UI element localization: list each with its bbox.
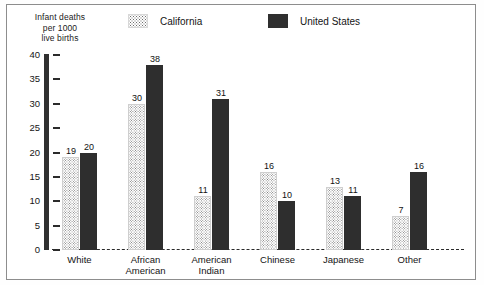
chart-figure: Infant deaths per 1000 live births Calif… [0,0,484,285]
bar-united-states [80,153,97,251]
bar-united-states [410,172,427,250]
x-axis-category-label: Chinese [243,254,313,265]
bar-value-label: 30 [126,93,148,103]
bar-group: 1131 [194,55,229,250]
y-axis-tick-label: 15 [16,171,40,182]
x-axis-category-label-line: White [45,254,115,265]
bar-california [194,196,211,250]
bar-california [392,216,409,250]
bar-value-label: 16 [258,161,280,171]
x-axis-category-label-line: Chinese [243,254,313,265]
bar-group: 1610 [260,55,295,250]
bar-group: 1920 [62,55,97,250]
y-axis-title-line-2: per 1000 [14,23,106,34]
x-axis-category-label: White [45,254,115,265]
bar-united-states [344,196,361,250]
bar-california [62,157,79,250]
y-axis-tick-label: 10 [16,195,40,206]
bar-group: 1311 [326,55,361,250]
bar-group: 3038 [128,55,163,250]
y-axis-tick-label: 5 [16,220,40,231]
y-axis-tick-label: 0 [16,244,40,255]
bar-value-label: 11 [342,185,364,195]
bar-united-states [278,201,295,250]
bar-united-states [212,99,229,250]
x-axis-category-label-line: African [111,254,181,265]
y-axis-title: Infant deaths per 1000 live births [14,12,106,44]
y-axis-tick-label: 40 [16,49,40,60]
y-axis-title-line-3: live births [14,33,106,44]
legend-label-united-states: United States [300,16,360,27]
legend-label-california: California [160,16,202,27]
bar-value-label: 16 [408,161,430,171]
bar-value-label: 10 [276,190,298,200]
plot-area: 19203038113116101311716 [48,55,466,250]
x-axis-category-label-line: American [177,254,247,265]
x-axis-category-label-line: Indian [177,265,247,276]
bar-california [326,187,343,250]
x-axis-category-label: AfricanAmerican [111,254,181,276]
y-axis-tick-label: 30 [16,98,40,109]
legend-item-california: California [128,14,202,28]
x-axis-category-label-line: Japanese [309,254,379,265]
legend-item-united-states: United States [268,14,360,28]
bar-value-label: 38 [144,54,166,64]
y-axis-tick-label: 25 [16,122,40,133]
x-axis-category-label: AmericanIndian [177,254,247,276]
x-axis-category-label-line: American [111,265,181,276]
x-axis-category-label: Other [375,254,445,265]
bar-value-label: 7 [390,205,412,215]
legend-swatch-united-states-icon [268,14,288,28]
bar-value-label: 13 [324,176,346,186]
bar-value-label: 20 [78,142,100,152]
y-axis-tick-label: 35 [16,73,40,84]
bar-value-label: 11 [192,185,214,195]
bar-california [260,172,277,250]
y-axis-tick-label: 20 [16,147,40,158]
bar-value-label: 31 [210,88,232,98]
y-axis-title-line-1: Infant deaths [14,12,106,23]
x-axis-category-label-line: Other [375,254,445,265]
legend-swatch-california-icon [128,14,148,28]
bar-united-states [146,65,163,250]
bar-group: 716 [392,55,427,250]
bar-california [128,104,145,250]
x-axis-category-label: Japanese [309,254,379,265]
